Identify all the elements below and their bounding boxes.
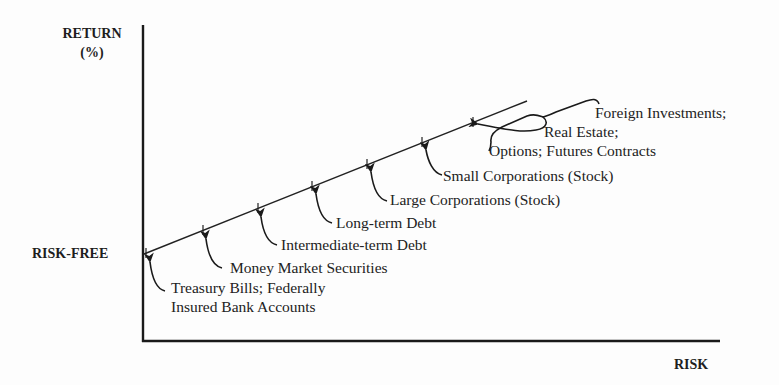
label-treasury: Treasury Bills; Federally Insured Bank A… (171, 280, 325, 315)
label-foreign: Foreign Investments; (595, 105, 726, 121)
label-long-term: Long-term Debt (336, 215, 436, 231)
label-money-market: Money Market Securities (230, 260, 388, 276)
risk-free-label: RISK-FREE (32, 246, 108, 262)
y-axis-label-line1: RETURN (54, 26, 130, 42)
label-large-corp: Large Corporations (Stock) (390, 192, 560, 208)
label-small-corp: Small Corporations (Stock) (443, 168, 614, 184)
label-treasury-line2: Insured Bank Accounts (171, 299, 325, 315)
label-real-estate: Real Estate; (544, 124, 618, 140)
arrow-large-corp-icon (371, 172, 387, 201)
label-treasury-line1: Treasury Bills; Federally (171, 280, 325, 296)
arrow-long-term-icon (316, 194, 332, 223)
arrow-small-corp-icon (426, 150, 442, 175)
label-intermediate: Intermediate-term Debt (281, 237, 427, 253)
x-axis-label: RISK (674, 357, 708, 373)
label-options-futures: Options; Futures Contracts (489, 143, 656, 159)
arrow-treasury-icon (150, 262, 165, 291)
y-axis-label-line2: (%) (54, 45, 130, 61)
arrow-intermediate-icon (261, 217, 277, 245)
arrow-money-market-icon (206, 239, 222, 268)
y-axis-label: RETURN (%) (54, 26, 130, 61)
